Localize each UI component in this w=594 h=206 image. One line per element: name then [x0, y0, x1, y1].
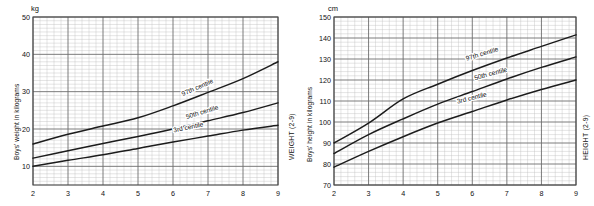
side-title-weight: WEIGHT (2-9)	[288, 113, 295, 160]
unit-label-kg: kg	[31, 4, 39, 13]
svg-text:50th centile: 50th centile	[185, 103, 220, 120]
x-tick-label: 6	[470, 189, 474, 198]
x-tick-label: 2	[332, 189, 336, 198]
y-tick-label: 120	[319, 76, 331, 85]
curve-label-0: 97th centile97th centile	[180, 77, 214, 97]
x-tick-label: 3	[66, 189, 70, 198]
svg-text:3rd centile: 3rd centile	[173, 120, 205, 133]
x-tick-label: 4	[101, 189, 105, 198]
side-title-height: HEIGHT (2-9)	[582, 115, 589, 160]
x-tick-label: 9	[276, 189, 280, 198]
y-tick-label: 40	[22, 50, 30, 59]
y-tick-label: 70	[323, 181, 331, 190]
y-tick-label: 100	[319, 118, 331, 127]
y-tick-label: 90	[323, 139, 331, 148]
x-tick-label: 8	[241, 189, 245, 198]
y-tick-label: 30	[22, 87, 30, 96]
y-axis-title-height: Boys' height in kilograms	[306, 87, 313, 162]
x-tick-label: 2	[31, 189, 35, 198]
growth-charts-page: kg Boys' weight in kilograms WEIGHT (2-9…	[0, 0, 594, 206]
centile-curve-0	[334, 35, 576, 143]
x-tick-label: 7	[505, 189, 509, 198]
svg-text:97th centile: 97th centile	[180, 77, 214, 97]
y-tick-label: 110	[320, 97, 331, 106]
x-tick-labels: 23456789	[31, 189, 280, 198]
centile-curve-2	[33, 125, 278, 166]
curve-label-1: 50th centile50th centile	[185, 103, 220, 120]
x-tick-label: 3	[367, 189, 371, 198]
y-axis-title-weight: Boys' weight in kilograms	[13, 84, 20, 160]
y-tick-label: 140	[319, 34, 331, 43]
y-tick-labels: 150140130120110100908070	[319, 13, 331, 190]
y-tick-label: 80	[323, 160, 331, 169]
x-tick-label: 6	[171, 189, 175, 198]
x-tick-label: 7	[206, 189, 210, 198]
y-tick-label: 130	[319, 55, 331, 64]
curve-annotations: 97th centile97th centile50th centile50th…	[173, 77, 220, 134]
curve-label-2: 3rd centile3rd centile	[173, 120, 205, 133]
y-tick-label: 150	[319, 13, 331, 22]
curve-annotations: 97th centile97th centile50th centile50th…	[456, 45, 508, 105]
chart-panel-height: cm Boys' height in kilograms HEIGHT (2-9…	[297, 0, 594, 206]
chart-panel-weight: kg Boys' weight in kilograms WEIGHT (2-9…	[0, 0, 297, 206]
x-tick-label: 5	[136, 189, 140, 198]
height-chart-svg: 2345678915014013012011010090807097th cen…	[297, 0, 594, 206]
x-tick-label: 5	[436, 189, 440, 198]
x-tick-label: 9	[574, 189, 578, 198]
unit-label-cm: cm	[328, 4, 338, 13]
y-tick-label: 50	[22, 13, 30, 22]
centile-curve-2	[334, 80, 576, 167]
weight-chart-svg: 23456789504030201097th centile97th centi…	[0, 0, 297, 206]
y-tick-labels: 5040302010	[22, 13, 30, 171]
x-tick-label: 8	[539, 189, 543, 198]
x-tick-label: 4	[401, 189, 405, 198]
y-tick-label: 20	[22, 125, 30, 134]
y-tick-label: 10	[22, 162, 30, 171]
x-tick-labels: 23456789	[332, 189, 578, 198]
